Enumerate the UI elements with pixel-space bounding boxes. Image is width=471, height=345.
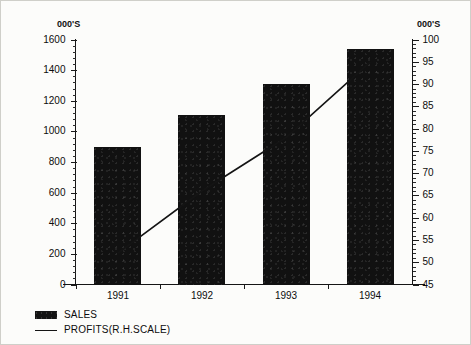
chart-legend: SALES PROFITS(R.H.SCALE) bbox=[35, 307, 170, 337]
legend-item-profits: PROFITS(R.H.SCALE) bbox=[35, 322, 170, 337]
legend-swatch-line-icon bbox=[35, 326, 57, 334]
legend-swatch-bar-icon bbox=[35, 311, 57, 319]
line-series-profits bbox=[1, 1, 471, 345]
chart-frame: 000'S 000'S 0200400600800100012001400160… bbox=[0, 0, 471, 345]
legend-label-profits: PROFITS(R.H.SCALE) bbox=[64, 324, 170, 335]
chart-plot-area: 000'S 000'S 0200400600800100012001400160… bbox=[1, 1, 471, 345]
legend-label-sales: SALES bbox=[64, 309, 97, 320]
legend-item-sales: SALES bbox=[35, 307, 170, 322]
